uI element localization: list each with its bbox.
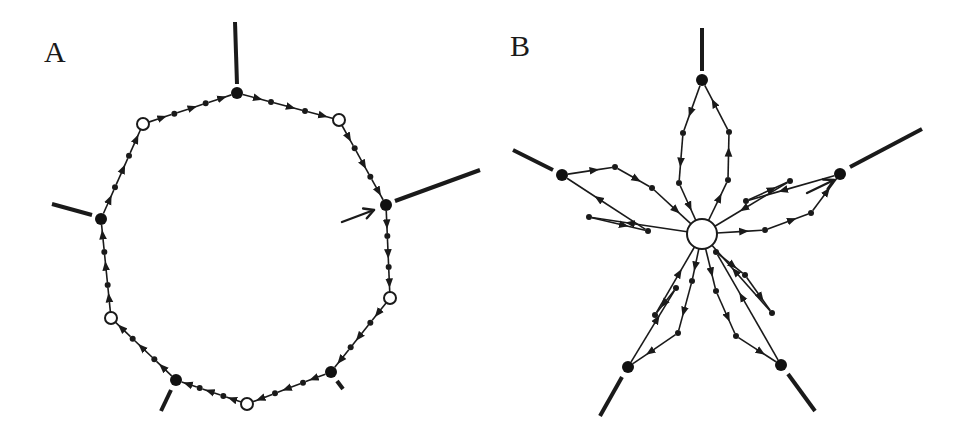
intermediate-dot [352,145,358,151]
edge-arrow [116,169,123,185]
edge-line [679,162,680,180]
stub-line [513,150,553,170]
edge-line [637,179,650,186]
filled-node [834,168,846,180]
intermediate-dot [300,380,306,386]
intermediate-dot [808,210,814,216]
edge-arrow [650,335,676,352]
intermediate-dot [612,164,618,170]
open-node [333,114,345,126]
edge-arrow [680,186,689,207]
intermediate-dot [130,336,136,342]
edge-line [728,317,735,333]
edge-arrow [684,284,691,312]
edge-arrow [356,151,364,165]
intermediate-dot [676,180,682,186]
edge-arrow [739,338,761,352]
edge-arrow [177,108,192,113]
stub-line [600,377,622,416]
edge-arrow [308,112,323,116]
ring-nodes [95,87,396,410]
intermediate-dot [726,129,732,135]
edge-arrow [717,231,744,233]
edge-line [679,312,684,330]
intermediate-dot [384,233,390,239]
edge-arrow [149,118,163,123]
edge-arrow [744,183,788,209]
edge-line [115,322,121,328]
filled-node [775,359,787,371]
intermediate-dot [675,330,681,336]
pointer-arrow-icon [807,179,834,193]
edge-arrow [340,350,348,361]
open-node [137,118,149,130]
filled-node [622,361,634,373]
star-stubs [513,28,922,416]
intermediate-dot [367,174,373,180]
edge-line [594,167,612,170]
panel-b-star-diagram: B [510,28,922,416]
edge-line [364,165,369,174]
edge-arrow [342,125,349,137]
edge-arrow [728,152,729,177]
filled-node [325,366,337,378]
edge-arrow [709,198,720,221]
edge-arrow [717,294,728,318]
intermediate-dot [733,333,739,339]
intermediate-dot [268,99,274,105]
edge-arrow [243,95,258,99]
edge-line [715,209,744,226]
edge-line [323,116,333,119]
intermediate-dot [348,344,354,350]
edge-arrow [568,170,594,174]
edge-line [676,210,691,224]
edge-line [203,389,210,391]
edge-arrow [130,139,136,153]
edge-line [711,272,715,288]
ring-stubs [52,22,480,411]
edge-arrow [695,249,699,267]
intermediate-dot [713,288,719,294]
intermediate-dot [197,385,203,391]
intermediate-dot [386,264,392,270]
intermediate-dot [101,249,107,255]
open-node [105,312,117,324]
edge-arrow [188,384,197,387]
edge-line [193,104,203,107]
filled-node [95,213,107,225]
intermediate-dot [302,108,308,114]
edge-line [226,397,232,399]
intermediate-dot [112,184,118,190]
edge-arrow [768,220,792,229]
intermediate-dot [151,356,157,362]
ring-edges [101,95,391,403]
intermediate-dot [171,111,177,117]
edge-arrow [142,347,152,357]
edge-line [567,178,598,198]
panel-b-label: B [510,29,530,62]
edge-line [135,341,142,348]
stub-line [395,170,480,201]
filled-node [696,74,708,86]
edge-line [719,183,726,198]
edge-line [157,361,163,367]
edge-line [372,313,378,320]
filled-node [231,87,243,99]
intermediate-dot [742,272,748,278]
filled-node [380,199,392,211]
edge-arrow [386,211,387,224]
intermediate-dot [680,130,686,136]
edge-line [108,288,109,298]
intermediate-dot [126,153,132,159]
intermediate-dot [673,285,679,291]
edge-line [335,360,341,367]
edge-arrow [209,98,223,103]
stub-line [52,204,92,215]
edge-arrow [260,394,272,398]
edge-line [306,379,314,382]
edge-line [291,107,302,110]
edge-arrow [314,374,326,378]
edge-arrow [657,273,680,312]
intermediate-dot [725,177,731,183]
intermediate-dot [367,320,373,326]
